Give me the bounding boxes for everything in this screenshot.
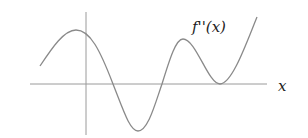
curve-label: f''(x) xyxy=(191,18,226,36)
x-axis-label: x xyxy=(278,77,287,95)
graph-diagram: f''(x) x xyxy=(0,0,308,138)
